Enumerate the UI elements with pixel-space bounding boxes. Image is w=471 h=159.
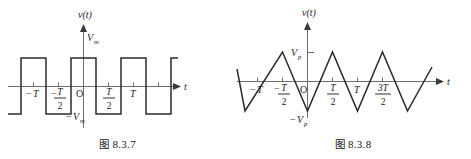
amplitude-positive-label: V p [291,47,302,60]
tick-minus-sign: − [274,83,280,94]
amplitude-negative-subscript: p [303,120,308,127]
fraction-denominator: 2 [58,101,63,111]
tick-label-T-over-2: T 2 [327,83,339,107]
fraction-numerator: T [106,87,112,97]
caption-number: 8.3.8 [348,138,372,150]
origin-label: O [76,88,83,99]
fraction-numerator: T [281,83,287,93]
amplitude-subscript: m [94,38,99,45]
y-axis [80,24,87,128]
tick-letter-T: T [257,84,264,95]
x-axis [237,78,444,85]
x-axis-label: t [184,81,187,92]
tick-minus-sign: − [250,84,256,95]
y-axis-arrow [80,24,87,32]
y-axis-label: v(t) [302,7,317,19]
tick-label-T: T [130,88,137,99]
tick-label-minus-T-over-2: − T 2 [51,87,66,111]
amplitude-negative-sign: − [66,111,72,122]
amplitude-subscript: p [297,53,302,60]
tick-letter-T: T [33,88,40,99]
fraction-numerator: 3T [377,83,389,93]
y-axis-arrow [304,22,311,30]
figure-8-3-7: v(t) t V m − V m − T − T [0,0,235,159]
amplitude-negative-label: − V p [290,114,308,127]
tick-label-minus-T: − T [26,88,40,99]
fraction-denominator: 2 [282,97,287,107]
tick-minus-sign: − [26,88,32,99]
figure-caption-8-3-7: 图 8.3.7 [0,136,235,151]
tick-label-minus-T: − T [250,84,264,95]
caption-number: 8.3.7 [112,138,136,150]
square-wave-plot: v(t) t V m − V m − T − T [0,0,235,135]
amplitude-negative-subscript: m [80,117,85,124]
y-axis-label: v(t) [78,9,93,21]
tick-label-minus-T-over-2: − T 2 [274,83,290,107]
amplitude-negative-sign: − [290,114,296,125]
fraction-denominator: 2 [331,97,336,107]
x-axis-label: t [447,76,450,87]
tick-label-T-over-2: T 2 [103,87,115,111]
x-axis-arrow [436,78,444,85]
tick-minus-sign: − [51,88,57,99]
amplitude-positive-label: V m [87,32,99,45]
figure-pair: v(t) t V m − V m − T − T [0,0,471,159]
figure-caption-8-3-8: 图 8.3.8 [235,136,471,151]
fraction-numerator: T [330,83,336,93]
origin-label: O [300,84,307,95]
tick-label-T: T [354,84,361,95]
x-axis-arrow [173,83,181,90]
triangle-wave-plot: v(t) t V p − V p − T − T [235,0,471,135]
tick-label-3T-over-2: 3T 2 [375,83,391,107]
amplitude-negative-label: − V m [66,111,85,124]
figure-8-3-8: v(t) t V p − V p − T − T [235,0,471,159]
caption-prefix: 图 [99,138,109,150]
fraction-numerator: T [57,87,63,97]
caption-prefix: 图 [335,138,345,150]
fraction-denominator: 2 [107,101,112,111]
fraction-denominator: 2 [381,97,386,107]
